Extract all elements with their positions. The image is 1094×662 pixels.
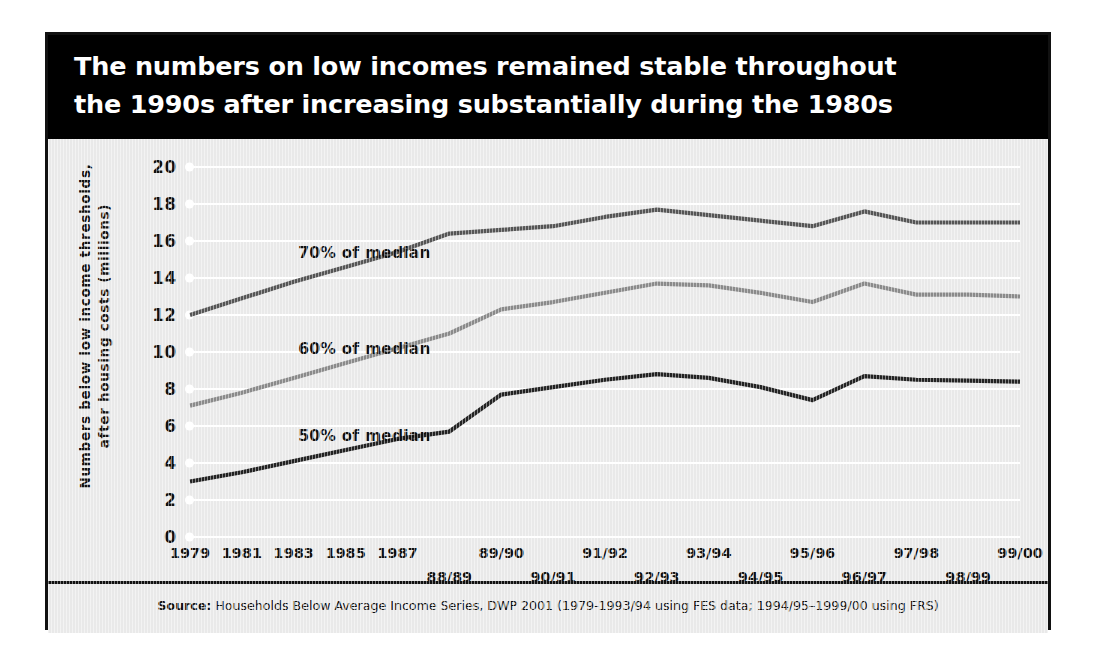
y-tick-label: 6: [164, 416, 176, 436]
y-tick-label: 8: [164, 379, 176, 399]
x-tick-label: 91/92: [582, 545, 628, 561]
series-label-60-of-median: 60% of median: [298, 340, 430, 358]
y-tick-label: 12: [152, 305, 176, 325]
source-note: Source: Households Below Average Income …: [157, 598, 938, 613]
chart-plot-area: Numbers below low income thresholds, aft…: [48, 139, 1048, 633]
x-tick-label: 93/94: [686, 545, 732, 561]
y-tick-label: 4: [164, 453, 176, 473]
chart-figure: The numbers on low incomes remained stab…: [45, 32, 1051, 630]
chart-title-line-1: The numbers on low incomes remained stab…: [74, 47, 1022, 85]
x-tick-label: 1979: [170, 545, 210, 561]
y-tick-label: 2: [164, 490, 176, 510]
series-line: [190, 210, 1020, 315]
y-tick-label: 10: [152, 342, 176, 362]
series-label-70-of-median: 70% of median: [298, 244, 430, 262]
y-tick-label: 14: [152, 268, 176, 288]
source-strip: Source: Households Below Average Income …: [48, 581, 1048, 627]
source-label: Source:: [157, 598, 211, 613]
x-tick-label: 1981: [222, 545, 262, 561]
title-banner: The numbers on low incomes remained stab…: [48, 35, 1048, 139]
series-label-50-of-median: 50% of median: [298, 427, 430, 445]
x-tick-label: 97/98: [893, 545, 939, 561]
x-tick-label: 95/96: [790, 545, 836, 561]
x-tick-label: 1985: [325, 545, 365, 561]
y-axis-title: Numbers below low income thresholds, aft…: [76, 161, 114, 491]
plot-canvas: 02468101214161820 70% of median60% of me…: [190, 167, 1020, 537]
y-tick-label: 0: [164, 527, 176, 547]
source-body: Households Below Average Income Series, …: [211, 598, 938, 613]
x-tick-label: 89/90: [478, 545, 524, 561]
y-tick-label: 20: [152, 157, 176, 177]
x-tick-label: 1987: [377, 545, 417, 561]
x-tick-label: 1983: [274, 545, 314, 561]
chart-title-line-2: the 1990s after increasing substantially…: [74, 85, 1022, 123]
y-tick-label: 18: [152, 194, 176, 214]
y-tick-label: 16: [152, 231, 176, 251]
x-tick-label: 99/00: [997, 545, 1043, 561]
